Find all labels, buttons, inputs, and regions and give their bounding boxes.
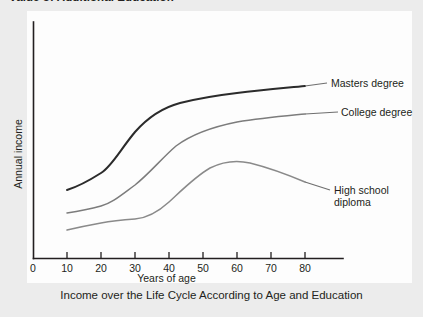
series-label-masters: Masters degree (331, 77, 404, 89)
series-label-highschool-line1: High school (334, 184, 389, 196)
x-axis-title: Years of age (0, 272, 378, 284)
series-line-college (67, 114, 305, 213)
figure: Value of Additional Education 0 10 (0, 0, 423, 317)
figure-caption: Income over the Life Cycle According to … (0, 289, 423, 301)
x-axis-ticks (67, 252, 305, 259)
series-label-highschool: High school diploma (334, 184, 389, 208)
y-axis-title: Annual income (12, 114, 24, 194)
series-label-college: College degree (341, 106, 412, 118)
leader-line-masters (305, 83, 327, 86)
leader-line-college (305, 112, 338, 114)
series-line-masters (67, 86, 305, 190)
series-label-highschool-line2: diploma (334, 196, 389, 208)
leader-line-highschool (305, 182, 330, 190)
